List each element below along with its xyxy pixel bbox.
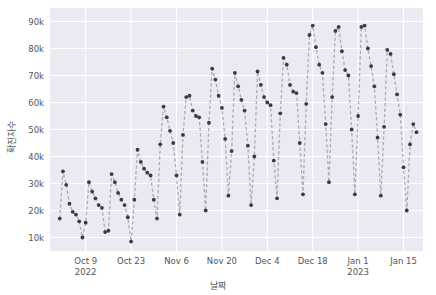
y-tick-label: 90k (0, 17, 44, 27)
x-axis-title: 날짜 (0, 279, 436, 292)
y-tick-label: 30k (0, 179, 44, 189)
chart-figure: 10k20k30k40k50k60k70k80k90k Oct 92022Oct… (0, 0, 436, 295)
x-tick-label: Nov 6 (164, 256, 189, 267)
y-tick-label: 70k (0, 71, 44, 81)
plot-svg (50, 8, 423, 251)
x-tick-label: Oct 23 (117, 256, 145, 267)
y-tick-label: 10k (0, 233, 44, 243)
x-tick-label: Nov 20 (207, 256, 237, 267)
x-tick-label: Jan 15 (390, 256, 417, 267)
x-tick-label: Dec 4 (255, 256, 280, 267)
y-tick-label: 20k (0, 206, 44, 216)
x-tick-label: Oct 92022 (74, 256, 97, 278)
x-tick-label: Dec 18 (298, 256, 328, 267)
plot-area (50, 8, 423, 251)
x-tick-label: Jan 12023 (347, 256, 369, 278)
y-axis-title: 확진자수 (5, 102, 18, 172)
y-tick-label: 80k (0, 44, 44, 54)
